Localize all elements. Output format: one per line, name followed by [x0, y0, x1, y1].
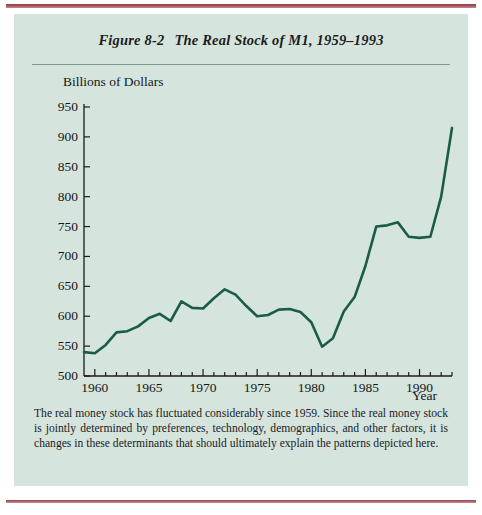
- x-axis-title: Year: [412, 388, 437, 404]
- page-bottom-rule: [6, 500, 476, 503]
- y-tick-label: 850: [44, 159, 78, 175]
- x-tick-label: 1960: [72, 380, 118, 396]
- data-series-line: [84, 128, 452, 353]
- y-tick-marks: [84, 107, 90, 376]
- x-tick-label: 1985: [342, 380, 388, 396]
- x-tick-label: 1965: [126, 380, 172, 396]
- y-tick-label: 700: [44, 248, 78, 264]
- x-tick-label: 1980: [288, 380, 334, 396]
- x-tick-marks: [95, 369, 452, 376]
- y-tick-label: 600: [44, 308, 78, 324]
- y-tick-label: 650: [44, 278, 78, 294]
- y-tick-label: 950: [44, 99, 78, 115]
- y-tick-label: 550: [44, 338, 78, 354]
- x-tick-label: 1975: [234, 380, 280, 396]
- y-tick-label: 800: [44, 189, 78, 205]
- x-tick-label: 1970: [180, 380, 226, 396]
- figure-caption: The real money stock has fluctuated cons…: [34, 406, 448, 452]
- cut-off-source-line: [14, 506, 314, 515]
- figure-panel: Figure 8-2The Real Stock of M1, 1959–199…: [14, 14, 468, 486]
- y-tick-label: 900: [44, 129, 78, 145]
- axis-lines: [84, 104, 452, 376]
- y-tick-label: 750: [44, 219, 78, 235]
- page-top-rule: [6, 4, 476, 8]
